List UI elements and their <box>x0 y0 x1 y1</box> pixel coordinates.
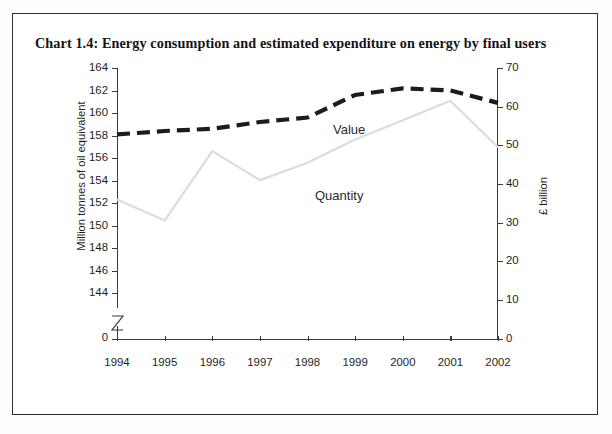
x-axis-tick <box>498 336 499 341</box>
plot-area: 164 162 160 158 156 154 152 150 148 146 … <box>0 0 612 434</box>
right-axis-tick <box>498 223 503 224</box>
x-axis-tick <box>450 336 451 341</box>
left-axis-tick <box>112 271 117 272</box>
left-axis-tick <box>112 248 117 249</box>
series-line-value <box>117 101 498 221</box>
x-axis-tick <box>403 336 404 341</box>
right-axis-label: 50 <box>506 138 536 150</box>
x-axis-tick <box>260 336 261 341</box>
left-axis-tick <box>112 293 117 294</box>
x-axis-tick <box>308 336 309 341</box>
left-axis-tick <box>112 68 117 69</box>
page-canvas: Chart 1.4: Energy consumption and estima… <box>0 0 612 434</box>
x-axis-label: 1995 <box>143 356 187 368</box>
right-axis-line <box>497 68 498 339</box>
x-axis-tick <box>117 336 118 341</box>
left-axis-tick <box>112 203 117 204</box>
right-axis-title: £ billion <box>537 151 549 241</box>
right-axis-tick <box>498 184 503 185</box>
left-axis-tick <box>112 158 117 159</box>
x-axis-label: 2001 <box>428 356 472 368</box>
right-axis-label: 40 <box>506 177 536 189</box>
right-axis-tick <box>498 261 503 262</box>
x-axis-label: 1999 <box>333 356 377 368</box>
left-axis-tick <box>112 181 117 182</box>
right-axis-tick <box>498 145 503 146</box>
left-axis-tick <box>112 136 117 137</box>
x-axis-tick <box>212 336 213 341</box>
right-axis-tick <box>498 300 503 301</box>
right-axis-tick <box>498 107 503 108</box>
x-axis-label: 2000 <box>381 356 425 368</box>
left-axis-title: Million tonnes of oil equivalent <box>75 81 87 271</box>
right-axis-tick <box>498 68 503 69</box>
x-axis-label: 1996 <box>190 356 234 368</box>
x-axis-label: 1997 <box>238 356 282 368</box>
right-axis-label: 0 <box>506 332 536 344</box>
left-axis-tick <box>112 226 117 227</box>
x-axis-label: 1998 <box>286 356 330 368</box>
left-axis-label-zero: 0 <box>78 331 108 343</box>
left-axis-label: 164 <box>78 61 108 73</box>
series-line-quantity <box>117 88 498 134</box>
right-axis-label: 70 <box>506 61 536 73</box>
x-axis-label: 1994 <box>95 356 139 368</box>
right-axis-label: 20 <box>506 254 536 266</box>
series-label-value: Value <box>333 122 365 137</box>
left-axis-line <box>117 68 118 308</box>
right-axis-label: 60 <box>506 100 536 112</box>
x-axis-tick <box>355 336 356 341</box>
x-axis-label: 2002 <box>476 356 520 368</box>
right-axis-label: 30 <box>506 216 536 228</box>
left-axis-tick <box>112 113 117 114</box>
x-axis-tick <box>165 336 166 341</box>
right-axis-label: 10 <box>506 293 536 305</box>
left-axis-tick <box>112 91 117 92</box>
left-axis-label: 144 <box>78 286 108 298</box>
series-label-quantity: Quantity <box>315 188 363 203</box>
